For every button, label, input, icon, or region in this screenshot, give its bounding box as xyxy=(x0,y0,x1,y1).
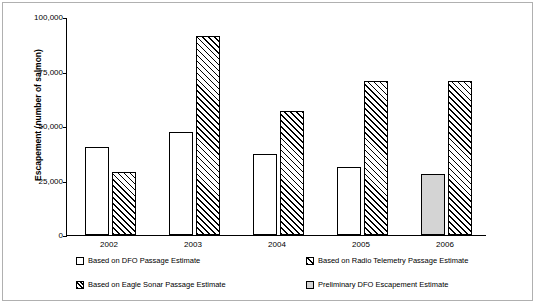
salmon-escapement-chart: Escapement (number of salmon) 0 25,000 5… xyxy=(0,0,536,304)
bar-2004-dfo-passage xyxy=(253,154,277,235)
bar-2004-radio-telemetry xyxy=(280,111,304,235)
legend-label: Based on Radio Telemetry Passage Estimat… xyxy=(318,256,468,265)
bar-2005-radio-telemetry xyxy=(364,81,388,235)
bar-2006-preliminary-dfo-escapement xyxy=(421,174,445,235)
plot-area: 0 25,000 50,000 75,000 100,000 2002 200 xyxy=(66,18,486,236)
y-tick-label: 100,000 xyxy=(34,14,63,22)
bar-group-2005: 2005 xyxy=(319,18,403,235)
legend-label: Preliminary DFO Escapement Estimate xyxy=(318,280,448,289)
y-tick-mark xyxy=(63,236,67,237)
y-tick-label: 75,000 xyxy=(39,69,63,77)
bar-2006-radio-telemetry xyxy=(448,81,472,235)
y-tick-label: 0 xyxy=(59,232,63,240)
bar-group-2004: 2004 xyxy=(235,18,319,235)
x-tick-label-2005: 2005 xyxy=(319,240,403,249)
legend-swatch-dense-diagonal-icon xyxy=(76,281,84,289)
bar-2003-dfo-passage xyxy=(169,132,193,236)
x-tick-label-2006: 2006 xyxy=(403,240,487,249)
bar-group-2006: 2006 xyxy=(403,18,487,235)
chart-legend: Based on DFO Passage Estimate Based on R… xyxy=(66,256,486,298)
legend-item-preliminary-dfo: Preliminary DFO Escapement Estimate xyxy=(306,280,448,289)
bars-layer: 2002 2003 2004 2005 xyxy=(67,18,486,235)
bar-group-2003: 2003 xyxy=(151,18,235,235)
legend-swatch-dots-icon xyxy=(76,257,84,265)
x-tick-label-2003: 2003 xyxy=(151,240,235,249)
x-tick-label-2004: 2004 xyxy=(235,240,319,249)
legend-label: Based on Eagle Sonar Passage Estimate xyxy=(88,280,226,289)
bar-2002-radio-telemetry xyxy=(112,172,136,235)
bar-2005-dfo-passage xyxy=(337,167,361,235)
legend-item-radio-telemetry: Based on Radio Telemetry Passage Estimat… xyxy=(306,256,468,265)
legend-swatch-diagonal-icon xyxy=(306,257,314,265)
legend-swatch-grey-icon xyxy=(306,281,314,289)
y-tick-label: 25,000 xyxy=(39,178,63,186)
bar-group-2002: 2002 xyxy=(67,18,151,235)
y-tick-label: 50,000 xyxy=(39,123,63,131)
x-tick-label-2002: 2002 xyxy=(67,240,151,249)
legend-item-dfo-passage: Based on DFO Passage Estimate xyxy=(76,256,200,265)
bar-2003-radio-telemetry xyxy=(196,36,220,236)
bar-2002-dfo-passage xyxy=(85,147,109,235)
legend-item-eagle-sonar: Based on Eagle Sonar Passage Estimate xyxy=(76,280,226,289)
legend-label: Based on DFO Passage Estimate xyxy=(88,256,200,265)
